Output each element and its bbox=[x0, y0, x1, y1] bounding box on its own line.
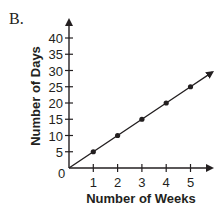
y-tick-label: 40 bbox=[49, 31, 63, 46]
y-tick-label: 35 bbox=[49, 47, 63, 62]
y-tick-label: 25 bbox=[49, 80, 63, 95]
data-point bbox=[139, 117, 144, 122]
x-tick-label: 1 bbox=[90, 175, 97, 190]
data-point bbox=[188, 84, 193, 89]
x-tick-label: 2 bbox=[114, 175, 121, 190]
y-tick-label: 5 bbox=[56, 145, 63, 160]
data-point bbox=[91, 149, 96, 154]
data-point bbox=[164, 100, 169, 105]
y-axis-title: Number of Days bbox=[28, 46, 43, 146]
origin-label: 0 bbox=[58, 166, 65, 181]
y-tick-label: 30 bbox=[49, 64, 63, 79]
x-tick-label: 3 bbox=[138, 175, 145, 190]
axes bbox=[69, 20, 212, 168]
y-tick-label: 20 bbox=[49, 96, 63, 111]
y-tick-label: 15 bbox=[49, 112, 63, 127]
x-axis-title: Number of Weeks bbox=[86, 191, 196, 206]
data-point bbox=[115, 133, 120, 138]
x-tick-label: 4 bbox=[163, 175, 170, 190]
x-tick-label: 5 bbox=[187, 175, 194, 190]
y-tick-label: 10 bbox=[49, 129, 63, 144]
line-chart: 510152025303540 12345 0 Number of Weeks … bbox=[0, 0, 222, 212]
